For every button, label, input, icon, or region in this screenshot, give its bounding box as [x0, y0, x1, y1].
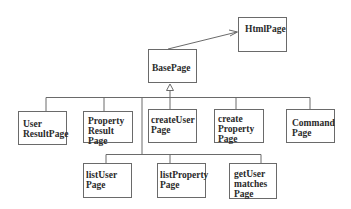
inheritance-triangle-icon	[167, 84, 174, 91]
class-box-create-property-page: create Property Page	[214, 109, 264, 143]
class-label: HtmlPage	[245, 24, 286, 34]
class-box-htmlpage: HtmlPage	[238, 17, 287, 52]
class-label: listUser Page	[86, 170, 117, 190]
class-label: Property Result Page	[88, 116, 124, 146]
class-box-list-user-page: listUser Page	[83, 163, 132, 198]
class-label: User ResultPage	[23, 119, 68, 139]
class-box-basepage: BasePage	[148, 49, 197, 83]
class-label: getUser matches Page	[234, 169, 267, 199]
class-box-property-result-page: Property Result Page	[83, 111, 133, 143]
class-box-command-page: Command Page	[286, 109, 335, 143]
association-line	[168, 32, 237, 49]
class-label: createUser Page	[151, 115, 195, 135]
class-label: create Property Page	[218, 114, 254, 144]
class-label: BasePage	[152, 63, 191, 73]
class-diagram: HtmlPage BasePage User ResultPage Proper…	[0, 0, 351, 209]
class-box-list-property-page: listProperty Page	[157, 163, 206, 198]
class-label: Command Page	[292, 118, 335, 138]
class-box-get-user-matches-page: getUser matches Page	[229, 163, 277, 199]
class-label: listProperty Page	[160, 170, 208, 190]
class-box-create-user-page: createUser Page	[148, 109, 197, 143]
class-box-user-result-page: User ResultPage	[18, 111, 67, 145]
